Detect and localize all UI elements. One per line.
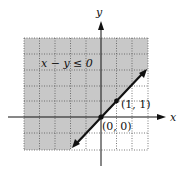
x-axis-label: x bbox=[170, 111, 177, 124]
y-axis-label: y bbox=[95, 6, 103, 19]
point-1-1 bbox=[114, 99, 119, 104]
inequality-label: x − y ≤ 0 bbox=[41, 57, 93, 70]
y-axis-arrow-icon bbox=[98, 21, 104, 30]
point-label-1-1: (1, 1) bbox=[121, 98, 151, 111]
point-origin bbox=[98, 114, 103, 119]
x-axis-arrow-icon bbox=[157, 114, 166, 120]
inequality-graph: x y x − y ≤ 0 (1, 1) (0, 0) bbox=[0, 0, 185, 178]
point-label-origin: (0, 0) bbox=[102, 120, 132, 133]
